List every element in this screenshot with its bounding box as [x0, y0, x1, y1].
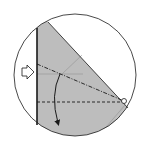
- origami-diagram: [0, 0, 148, 154]
- paper-region: [37, 10, 140, 150]
- paper-fill: [37, 10, 140, 150]
- push-arrow-icon: [22, 65, 34, 79]
- pivot-point-icon: [122, 99, 127, 104]
